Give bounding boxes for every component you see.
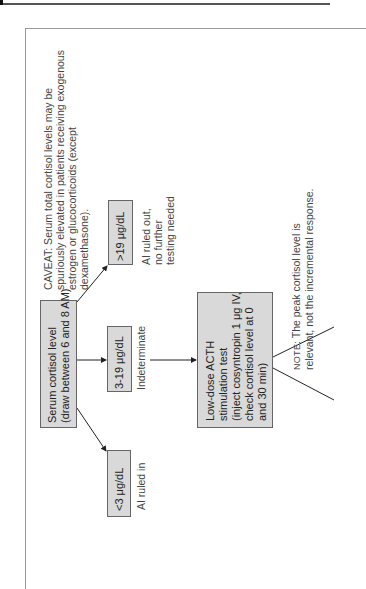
outcome-line: testing needed — [164, 196, 176, 265]
branch-mid-label: 3-19 μg/dL — [113, 336, 126, 389]
branch-low-outcome: AI ruled in — [135, 463, 147, 510]
caveat-line: estrogen or glucocorticoids (except — [66, 50, 78, 290]
branch-mid-outcome: Indeterminate — [135, 326, 147, 390]
note-prefix: NOTE: — [292, 341, 302, 370]
serum-cortisol-node: Serum cortisol level (draw between 6 and… — [40, 300, 77, 428]
node-line: (inject cosyntropin 1 μg IV, — [230, 292, 243, 421]
branch-high-box: >19 μg/dL — [108, 200, 133, 265]
acth-stimulation-node: Low-dose ACTH stimulation test (inject c… — [197, 292, 273, 428]
branch-mid-box: 3-19 μg/dL — [107, 326, 132, 392]
arrow-to-low — [77, 408, 106, 451]
branch-line-lower — [273, 368, 334, 400]
caveat-line: spuriously elevated in patients receivin… — [54, 50, 66, 290]
note-line: relevant, not the incremental response. — [303, 188, 315, 370]
node-line: stimulation test — [217, 292, 230, 421]
note-text: NOTE: The peak cortisol level is relevan… — [290, 188, 315, 370]
branch-high-label: >19 μg/dL — [114, 212, 127, 261]
node-line: (draw between 6 and 8 AM) — [59, 288, 72, 423]
outcome-line: no further — [152, 196, 164, 265]
node-line: Low-dose ACTH — [204, 292, 217, 421]
branch-low-label: <3 μg/dL — [113, 468, 126, 511]
outcome-line: Indeterminate — [135, 326, 147, 390]
caveat-text: CAVEAT: Serum total cortisol levels may … — [42, 50, 90, 290]
branch-low-box: <3 μg/dL — [107, 450, 131, 517]
outcome-line: AI ruled out, — [140, 196, 152, 265]
node-line: check cortisol level at 0 — [243, 292, 256, 421]
outcome-line: AI ruled in — [135, 463, 147, 510]
caveat-line: dexamethasone). — [78, 50, 90, 290]
branch-high-outcome: AI ruled out, no further testing needed — [140, 196, 176, 265]
node-line: Serum cortisol level — [46, 288, 59, 423]
note-line: The peak cortisol level is — [290, 223, 302, 338]
caveat-line: CAVEAT: Serum total cortisol levels may … — [42, 50, 54, 290]
node-line: and 30 min) — [256, 292, 269, 421]
